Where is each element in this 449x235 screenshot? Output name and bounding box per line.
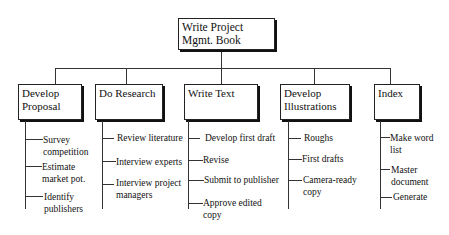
task-tick xyxy=(380,169,390,170)
task-tick xyxy=(288,159,302,160)
horizontal-connector xyxy=(55,68,225,69)
task-item: Approve editedcopy xyxy=(203,197,262,221)
task-item: Roughs xyxy=(304,132,333,144)
task-tick xyxy=(188,180,204,181)
task-spine xyxy=(188,121,189,209)
branch-label-line: Index xyxy=(378,87,416,100)
task-item: Submit to publisher xyxy=(204,174,279,186)
branch-index: Index xyxy=(374,84,420,120)
task-tick xyxy=(102,184,114,185)
task-item: Masterdocument xyxy=(391,164,428,188)
task-item: Revise xyxy=(203,154,229,166)
branch-label-line: Illustrations xyxy=(284,100,346,113)
branch-label-line: Develop xyxy=(22,87,78,100)
task-item: Develop first draft xyxy=(205,132,275,144)
task-tick xyxy=(288,180,302,181)
branch-develop-proposal: Develop Proposal xyxy=(18,84,82,120)
task-spine xyxy=(380,121,381,209)
task-item: Camera-readycopy xyxy=(303,174,357,198)
task-item: Make wordlist xyxy=(390,132,434,156)
branch-connector xyxy=(55,68,56,84)
branch-do-research: Do Research xyxy=(95,84,163,120)
task-item: Interview experts xyxy=(116,156,182,168)
task-spine xyxy=(102,121,103,209)
task-spine xyxy=(288,121,289,209)
root-line-2: Mgmt. Book xyxy=(182,34,271,47)
branch-develop-illustrations: Develop Illustrations xyxy=(280,84,350,120)
branch-label-line: Proposal xyxy=(22,100,78,113)
task-item: Identifypublishers xyxy=(44,191,83,215)
task-tick xyxy=(288,138,301,139)
task-tick xyxy=(188,138,200,139)
task-item: Generate xyxy=(393,191,427,203)
task-item: Interview projectmanagers xyxy=(116,177,181,201)
branch-label-line: Do Research xyxy=(99,87,159,100)
branch-write-text: Write Text xyxy=(184,84,258,120)
task-tick xyxy=(188,160,203,161)
task-tick xyxy=(102,138,114,139)
task-tick xyxy=(102,161,116,162)
root-connector xyxy=(221,50,222,68)
root-line-1: Write Project xyxy=(182,21,271,34)
branch-connector xyxy=(221,68,222,84)
branch-connector xyxy=(126,68,127,84)
task-tick xyxy=(25,196,43,197)
horizontal-connector xyxy=(222,68,390,69)
branch-label-line: Write Text xyxy=(188,87,254,100)
task-tick xyxy=(25,139,43,140)
task-item: First drafts xyxy=(302,153,343,165)
branch-connector xyxy=(390,68,391,84)
root-node: Write Project Mgmt. Book xyxy=(178,18,275,50)
task-item: Review literature xyxy=(117,132,183,144)
branch-label-line: Develop xyxy=(284,87,346,100)
task-tick xyxy=(380,197,392,198)
branch-connector xyxy=(314,68,315,84)
task-tick xyxy=(25,166,42,167)
task-item: Estimatemarket pot. xyxy=(42,161,85,185)
task-tick xyxy=(188,203,203,204)
task-item: Surveycompetition xyxy=(43,134,88,158)
task-tick xyxy=(380,137,390,138)
